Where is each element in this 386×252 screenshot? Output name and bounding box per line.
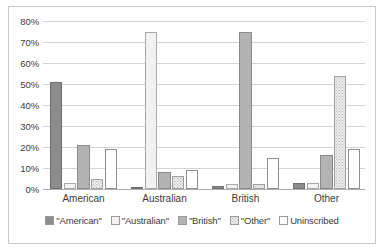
bar-group-other xyxy=(286,21,367,189)
y-tick-label-50: 50% xyxy=(20,79,39,90)
bar-other-other[interactable] xyxy=(334,76,346,189)
bar-australian-other[interactable] xyxy=(172,176,184,189)
y-tick-label-80: 80% xyxy=(20,16,39,27)
bars-layer xyxy=(43,21,365,189)
y-axis: 0%10%20%30%40%50%60%70%80% xyxy=(9,21,43,189)
y-tick-label-70: 70% xyxy=(20,37,39,48)
bar-british-american[interactable] xyxy=(212,186,224,189)
legend-label-australian: "Australian" xyxy=(122,215,169,226)
bar-british-australian[interactable] xyxy=(226,184,238,189)
legend-label-uninscribed: Uninscribed xyxy=(290,215,339,226)
bar-british-other[interactable] xyxy=(253,184,265,189)
bar-australian-australian[interactable] xyxy=(145,32,157,190)
bar-british-uninscribed[interactable] xyxy=(267,158,279,190)
y-tick-label-30: 30% xyxy=(20,121,39,132)
chart-legend: "American""Australian""British""Other"Un… xyxy=(9,215,375,226)
y-tick-label-60: 60% xyxy=(20,58,39,69)
legend-item-american[interactable]: "American" xyxy=(45,215,101,226)
legend-label-british: "British" xyxy=(189,215,221,226)
gridline-0 xyxy=(43,189,365,190)
bar-american-other[interactable] xyxy=(91,179,103,190)
bar-australian-british[interactable] xyxy=(158,172,170,189)
bar-british-british[interactable] xyxy=(239,32,251,190)
bar-american-american[interactable] xyxy=(50,82,62,189)
australian-swatch xyxy=(111,216,120,225)
x-tick-label-british: British xyxy=(205,193,286,204)
x-tick-label-other: Other xyxy=(286,193,367,204)
legend-item-other[interactable]: "Other" xyxy=(230,215,270,226)
y-tick-label-10: 10% xyxy=(20,163,39,174)
bar-other-australian[interactable] xyxy=(307,183,319,189)
y-tick-label-20: 20% xyxy=(20,142,39,153)
bar-australian-american[interactable] xyxy=(131,187,143,189)
uninscribed-swatch xyxy=(279,216,288,225)
other-swatch xyxy=(230,216,239,225)
x-tick-label-australian: Australian xyxy=(124,193,205,204)
legend-label-american: "American" xyxy=(56,215,101,226)
legend-label-other: "Other" xyxy=(241,215,270,226)
bar-american-british[interactable] xyxy=(77,145,89,189)
x-tick-label-american: American xyxy=(43,193,124,204)
bar-group-american xyxy=(43,21,124,189)
legend-item-british[interactable]: "British" xyxy=(178,215,221,226)
chart-figure: 0%10%20%30%40%50%60%70%80% AmericanAustr… xyxy=(8,6,376,244)
legend-item-uninscribed[interactable]: Uninscribed xyxy=(279,215,339,226)
british-swatch xyxy=(178,216,187,225)
bar-american-uninscribed[interactable] xyxy=(105,149,117,189)
y-tick-label-0: 0% xyxy=(25,184,39,195)
bar-other-american[interactable] xyxy=(293,183,305,189)
bar-australian-uninscribed[interactable] xyxy=(186,170,198,189)
bar-group-australian xyxy=(124,21,205,189)
bar-other-uninscribed[interactable] xyxy=(348,149,360,189)
bar-group-british xyxy=(205,21,286,189)
y-tick-label-40: 40% xyxy=(20,100,39,111)
legend-item-australian[interactable]: "Australian" xyxy=(111,215,169,226)
x-axis: AmericanAustralianBritishOther xyxy=(43,193,365,211)
american-swatch xyxy=(45,216,54,225)
bar-american-australian[interactable] xyxy=(64,183,76,189)
plot-area xyxy=(43,21,365,189)
bar-other-british[interactable] xyxy=(320,155,332,189)
